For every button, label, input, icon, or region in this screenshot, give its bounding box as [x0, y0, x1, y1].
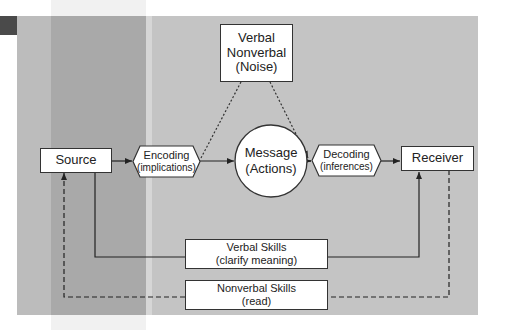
encoding-label: Encoding	[144, 149, 190, 162]
decoding-sublabel: (inferences)	[320, 161, 373, 173]
edge-nonverbal-skills-from-receiver	[328, 170, 449, 297]
nonverbal-skills-sublabel: (read)	[242, 295, 271, 308]
receiver-label: Receiver	[412, 151, 463, 166]
encoding-sublabel: (implications)	[137, 162, 196, 174]
noise-line-2: Nonverbal	[227, 46, 286, 61]
edge-nonverbal-skills-to-source	[64, 173, 185, 297]
message-label: Message	[245, 145, 298, 161]
source-node: Source	[40, 148, 112, 173]
message-node: Message (Actions)	[235, 125, 307, 197]
nonverbal-skills-node: Nonverbal Skills (read)	[185, 280, 328, 310]
verbal-skills-label: Verbal Skills	[227, 241, 287, 254]
noise-line-1: Verbal	[238, 31, 275, 46]
receiver-node: Receiver	[401, 146, 474, 171]
noise-line-3: (Noise)	[236, 60, 278, 75]
encoding-node: Encoding (implications)	[133, 146, 200, 177]
edge-verbal-skills-loop	[95, 172, 185, 257]
edge-verbal-skills-to-receiver	[328, 172, 419, 257]
nonverbal-skills-label: Nonverbal Skills	[217, 282, 296, 295]
verbal-skills-node: Verbal Skills (clarify meaning)	[185, 239, 328, 269]
decoding-label: Decoding	[323, 148, 369, 161]
verbal-skills-sublabel: (clarify meaning)	[216, 254, 297, 267]
decoding-node: Decoding (inferences)	[312, 145, 381, 176]
message-sublabel: (Actions)	[245, 161, 296, 177]
source-label: Source	[55, 153, 96, 168]
noise-node: Verbal Nonverbal (Noise)	[220, 24, 293, 82]
